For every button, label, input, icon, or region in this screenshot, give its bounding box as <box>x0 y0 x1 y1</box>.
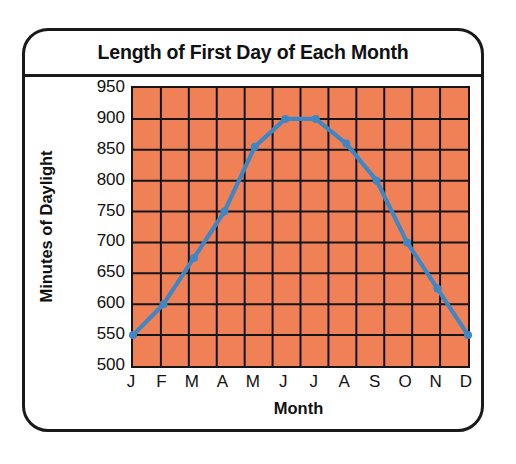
data-point-marker[interactable] <box>220 208 228 216</box>
data-point-marker[interactable] <box>251 143 259 151</box>
y-axis-tick-label: 550 <box>67 325 125 342</box>
x-axis-tick-label: J <box>269 373 297 390</box>
x-axis-tick-label: A <box>208 373 236 390</box>
data-point-marker[interactable] <box>129 331 137 339</box>
data-point-marker[interactable] <box>464 331 472 339</box>
series-line <box>133 119 468 335</box>
y-axis-tick-labels: 950900850800750700650600550500 <box>63 86 125 364</box>
data-point-marker[interactable] <box>342 140 350 148</box>
x-axis-tick-labels: JFMAMJJASOND <box>131 373 466 399</box>
data-point-marker[interactable] <box>312 115 320 123</box>
x-axis-tick-label: M <box>178 373 206 390</box>
data-series-daylight <box>133 88 468 366</box>
y-axis-tick-label: 500 <box>67 356 125 373</box>
data-point-marker[interactable] <box>159 300 167 308</box>
x-axis-title: Month <box>131 399 466 418</box>
x-axis-tick-label: A <box>330 373 358 390</box>
y-axis-tick-label: 750 <box>67 202 125 219</box>
data-point-marker[interactable] <box>373 177 381 185</box>
x-axis-tick-label: D <box>452 373 480 390</box>
chart-card: Length of First Day of Each Month Minute… <box>22 28 484 432</box>
x-axis-tick-label: S <box>361 373 389 390</box>
x-axis-tick-label: N <box>422 373 450 390</box>
x-axis-tick-label: M <box>239 373 267 390</box>
data-point-marker[interactable] <box>403 238 411 246</box>
plot-wrapper: Minutes of Daylight 95090085080075070065… <box>25 77 481 432</box>
y-axis-tick-label: 850 <box>67 140 125 157</box>
data-point-marker[interactable] <box>190 254 198 262</box>
y-axis-tick-label: 650 <box>67 263 125 280</box>
y-axis-tick-label: 600 <box>67 294 125 311</box>
x-axis-tick-label: O <box>391 373 419 390</box>
x-axis-tick-label: F <box>147 373 175 390</box>
y-axis-tick-label: 900 <box>67 109 125 126</box>
y-axis-tick-label: 700 <box>67 232 125 249</box>
plot-area <box>131 86 470 368</box>
chart-title: Length of First Day of Each Month <box>98 41 409 64</box>
data-point-marker[interactable] <box>434 285 442 293</box>
x-axis-tick-label: J <box>300 373 328 390</box>
y-axis-title: Minutes of Daylight <box>37 127 56 327</box>
chart-title-bar: Length of First Day of Each Month <box>25 31 481 77</box>
x-axis-tick-label: J <box>117 373 145 390</box>
data-point-marker[interactable] <box>281 115 289 123</box>
y-axis-tick-label: 800 <box>67 171 125 188</box>
y-axis-tick-label: 950 <box>67 78 125 95</box>
